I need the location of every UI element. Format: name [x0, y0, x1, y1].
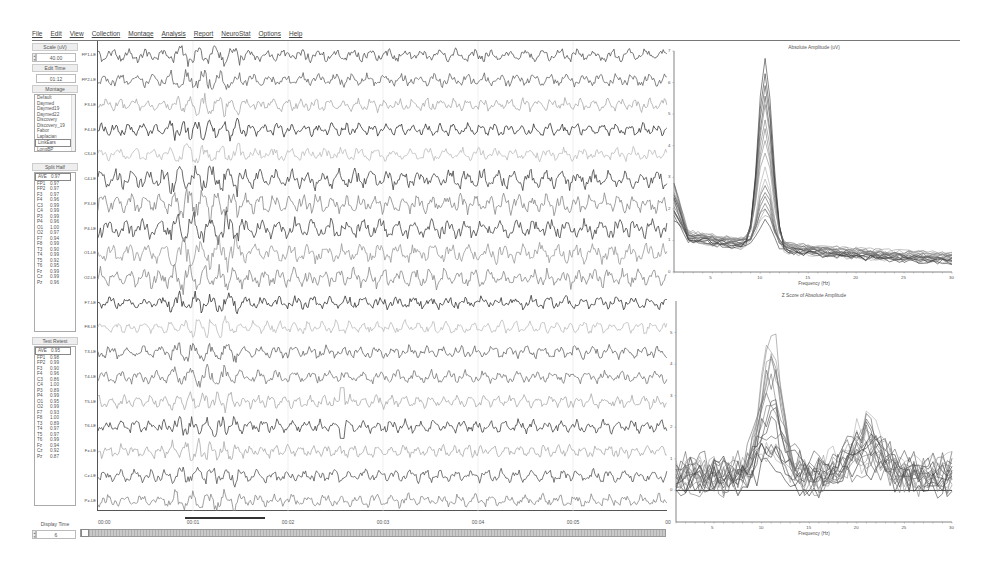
reliability-value: 0.94: [50, 236, 59, 241]
time-axis: 00:0000:0100:0200:0300:0400:0500: [80, 519, 668, 527]
montage-scrollbar[interactable]: [71, 95, 75, 151]
edit-time-input[interactable]: 01:12: [36, 74, 76, 83]
channel-label: P4-LE: [80, 226, 97, 231]
y-tick-label: 3: [670, 393, 672, 398]
channel-label: F4-LE: [80, 127, 97, 132]
chart-xlabel: Frequency (Hz): [668, 531, 960, 536]
reliability-value: 0.97: [50, 192, 59, 197]
channel-label: C4-LE: [80, 176, 97, 181]
x-tick-label: 10: [759, 525, 764, 530]
reliability-value: 0.99: [50, 241, 59, 246]
x-tick-label: 15: [806, 525, 811, 530]
x-tick-label: 5: [709, 275, 711, 280]
reliability-value: 0.99: [50, 269, 59, 274]
reliability-value: 0.94: [50, 443, 59, 448]
channel-label: P3-LE: [80, 201, 97, 206]
reliability-value: 0.90: [50, 366, 59, 371]
zscore-amplitude-chart: Z Score of Absolute Amplitude Frequency …: [668, 291, 960, 541]
reliability-value: 0.86: [50, 377, 59, 382]
reliability-row[interactable]: AVE0.97: [35, 173, 71, 181]
y-tick-label: 3: [668, 174, 670, 179]
scale-label: Scale (uV): [32, 43, 78, 51]
y-tick-label: 0: [668, 269, 670, 274]
reliability-value: 0.96: [50, 371, 59, 376]
channel-label: T6-LE: [80, 423, 97, 428]
x-tick-label: 30: [949, 525, 954, 530]
channel-label: F7-LE: [80, 300, 97, 305]
reliability-value: 0.93: [50, 410, 59, 415]
montage-list[interactable]: DefaultDaymedDaymed19Daymed22DiscoveryDi…: [34, 94, 76, 152]
reliability-value: 0.92: [50, 258, 59, 263]
montage-label: Montage: [32, 85, 78, 93]
reliability-value: 0.96: [50, 280, 59, 285]
reliability-value: 0.97: [50, 426, 59, 431]
y-tick-label: 5: [668, 111, 670, 116]
display-time-input[interactable]: 6: [36, 530, 76, 539]
reliability-value: 0.95: [50, 263, 59, 268]
channel-label: O2-LE: [80, 275, 97, 280]
reliability-value: 0.99: [50, 208, 59, 213]
reliability-row[interactable]: Pz0.96: [35, 280, 75, 286]
reliability-value: 0.97: [50, 181, 59, 186]
y-tick-label: 6: [668, 80, 670, 85]
y-tick-label: 1: [668, 237, 670, 242]
x-tick-label: 20: [853, 275, 858, 280]
y-tick-label: 2: [670, 424, 672, 429]
reliability-value: 0.98: [50, 355, 59, 360]
channel-label: Fz-LE: [80, 448, 97, 453]
reliability-value: 0.95: [51, 348, 60, 353]
reliability-value: 0.99: [50, 252, 59, 257]
time-tick-label: 00:00: [98, 519, 111, 525]
reliability-value: 1.00: [50, 225, 59, 230]
y-tick-label: 4: [670, 361, 672, 366]
channel-name: AVE: [38, 174, 51, 180]
left-panel: Scale (uV) ▲▼ 40.00 Edit Time 01:12 Mont…: [32, 41, 78, 553]
x-tick-label: 25: [901, 275, 906, 280]
eeg-waveforms: [80, 41, 668, 511]
scroll-thumb[interactable]: [81, 529, 89, 537]
channel-label: F3-LE: [80, 102, 97, 107]
time-tick-label: 00:05: [567, 519, 580, 525]
reliability-value: 0.95: [50, 399, 59, 404]
reliability-value: 0.87: [50, 454, 59, 459]
reliability-value: 0.96: [50, 197, 59, 202]
y-tick-label: 7: [668, 48, 670, 53]
montage-option[interactable]: LongBP: [35, 147, 75, 153]
reliability-value: 0.99: [50, 203, 59, 208]
reliability-value: 0.96: [50, 219, 59, 224]
channel-label: C3-LE: [80, 151, 97, 156]
reliability-value: 1.00: [50, 382, 59, 387]
y-tick-label: 5: [670, 330, 672, 335]
channel-label: F8-LE: [80, 324, 97, 329]
edit-time-label: Edit Time: [32, 64, 78, 72]
time-tick-label: 00:02: [282, 519, 295, 525]
reliability-row[interactable]: Pz0.87: [35, 454, 75, 460]
reliability-value: 0.99: [50, 214, 59, 219]
channel-label: FP1-LE: [80, 52, 97, 57]
y-tick-label: 2: [668, 206, 670, 211]
reliability-value: 0.99: [50, 393, 59, 398]
reliability-value: 0.97: [50, 432, 59, 437]
x-tick-label: 30: [949, 275, 954, 280]
reliability-value: 0.99: [50, 360, 59, 365]
montage-option[interactable]: LinkEars: [35, 139, 71, 147]
absolute-amplitude-chart: Absolute Amplitude (uV) Frequency (Hz) 5…: [668, 41, 960, 291]
test-retest-label: Test Retest: [32, 337, 78, 345]
channel-name: Pz: [37, 280, 50, 286]
time-scrollbar[interactable]: [80, 529, 666, 537]
split-half-label: Split Half: [32, 163, 78, 171]
y-tick-label: 0: [670, 487, 672, 492]
x-tick-label: 20: [854, 525, 859, 530]
y-tick-label: 4: [668, 143, 670, 148]
display-time-label: Display Time: [32, 521, 78, 529]
time-tick-label: 00:03: [377, 519, 390, 525]
zscore-amplitude-plot: [668, 291, 960, 541]
reliability-row[interactable]: AVE0.95: [35, 347, 71, 355]
x-tick-label: 15: [805, 275, 810, 280]
split-half-list[interactable]: AVE0.97FP10.97FP20.97F30.97F40.96C30.99C…: [34, 172, 76, 332]
test-retest-list[interactable]: AVE0.95FP10.98FP20.99F30.90F40.96C30.86C…: [34, 346, 76, 506]
reliability-value: 0.97: [50, 230, 59, 235]
scale-input[interactable]: 40.00: [36, 53, 76, 62]
eeg-trace-panel[interactable]: FP1-LEFP2-LEF3-LEF4-LEC3-LEC4-LEP3-LEP4-…: [80, 41, 668, 511]
channel-label: T5-LE: [80, 399, 97, 404]
